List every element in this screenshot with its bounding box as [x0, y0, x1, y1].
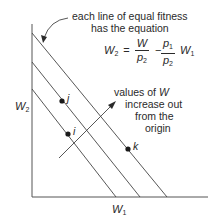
point-k-label: k	[133, 140, 138, 152]
eq-frac2-num: p1	[161, 37, 175, 54]
annotation-arrowhead-icon	[41, 35, 47, 43]
point-j	[59, 98, 64, 103]
eq-frac2-den: p2	[161, 54, 175, 70]
point-k	[125, 146, 130, 151]
fitness-line-2	[32, 62, 140, 197]
equation: W2 =	[104, 44, 130, 57]
annotation-line-1: each line of equal fitness	[72, 10, 188, 22]
point-j-label: j	[67, 92, 69, 104]
point-i	[65, 131, 70, 136]
direction-note-line-3: from the	[135, 110, 174, 122]
eq-fraction-1: W p2	[135, 37, 149, 67]
eq-frac1-den: p2	[135, 51, 149, 67]
point-i-label: i	[73, 125, 75, 137]
x-axis-label: W1	[112, 203, 126, 219]
eq-lhs-var: W	[104, 44, 114, 56]
annotation-line-2: has the equation	[91, 22, 169, 34]
eq-equals: =	[123, 44, 129, 56]
direction-arrow-line	[59, 104, 113, 158]
annotation-curved-arrow	[44, 18, 68, 38]
direction-note-line-2: increase out	[125, 98, 182, 110]
y-axis-label: W2	[15, 100, 29, 116]
direction-note-line-1: values of W	[114, 86, 169, 98]
eq-lhs-sub: 2	[114, 50, 118, 57]
eq-fraction-2: p1 p2	[161, 37, 175, 70]
direction-note-line-4: origin	[145, 122, 171, 134]
eq-rhs: W1	[180, 44, 194, 57]
eq-frac1-num: W	[135, 37, 149, 51]
